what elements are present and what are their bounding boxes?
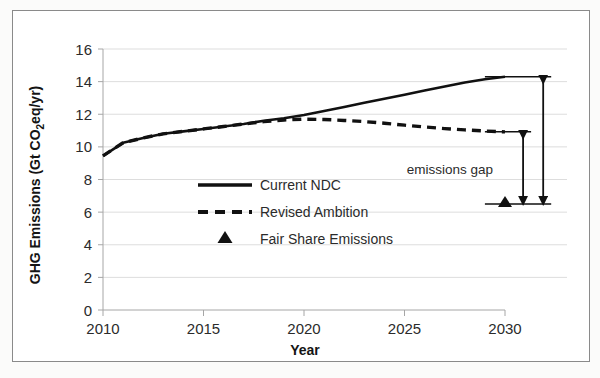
figure-container: 0246810121416 20102015202020252030 Year …: [0, 0, 600, 378]
y-axis-title-after: eq/yr): [27, 86, 43, 124]
emissions-gap-label: emissions gap: [407, 162, 493, 177]
x-tick-label-2020: 2020: [287, 320, 320, 337]
y-tick-label-4: 4: [84, 236, 92, 253]
series-line-revised-ambition: [103, 119, 505, 156]
y-tick-label-0: 0: [84, 302, 92, 319]
marker-fair-share-emissions: [498, 196, 512, 207]
legend-item-revised-ambition: Revised Ambition: [198, 204, 368, 220]
y-tick-label-10: 10: [75, 138, 92, 155]
series-line-current-ndc: [103, 77, 505, 156]
data-series-group: [103, 77, 505, 156]
legend-label-revised-ambition: Revised Ambition: [260, 204, 368, 220]
y-tick-label-12: 12: [75, 106, 92, 123]
x-axis-tick-labels: 20102015202020252030: [86, 320, 521, 337]
y-tick-label-8: 8: [84, 171, 92, 188]
legend-label-current-ndc: Current NDC: [260, 177, 341, 193]
annotations-group: emissions gap: [407, 77, 552, 204]
legend-label-fair-share-emissions: Fair Share Emissions: [260, 231, 393, 247]
y-axis-tick-labels: 0246810121416: [75, 41, 92, 319]
y-tick-label-16: 16: [75, 41, 92, 58]
y-tick-label-14: 14: [75, 73, 92, 90]
x-axis-title: Year: [290, 342, 320, 358]
y-axis-title-before: GHG Emissions (Gt CO: [27, 129, 43, 284]
x-tick-label-2015: 2015: [187, 320, 220, 337]
y-tick-label-2: 2: [84, 269, 92, 286]
y-tick-label-6: 6: [84, 204, 92, 221]
x-tick-label-2025: 2025: [388, 320, 421, 337]
ghg-emissions-chart: 0246810121416 20102015202020252030 Year …: [0, 0, 600, 378]
y-axis-title: GHG Emissions (Gt CO2eq/yr): [27, 86, 46, 285]
x-tick-label-2010: 2010: [86, 320, 119, 337]
legend-triangle-icon: [218, 231, 233, 243]
x-tick-label-2030: 2030: [488, 320, 521, 337]
data-points-group: [498, 196, 512, 207]
